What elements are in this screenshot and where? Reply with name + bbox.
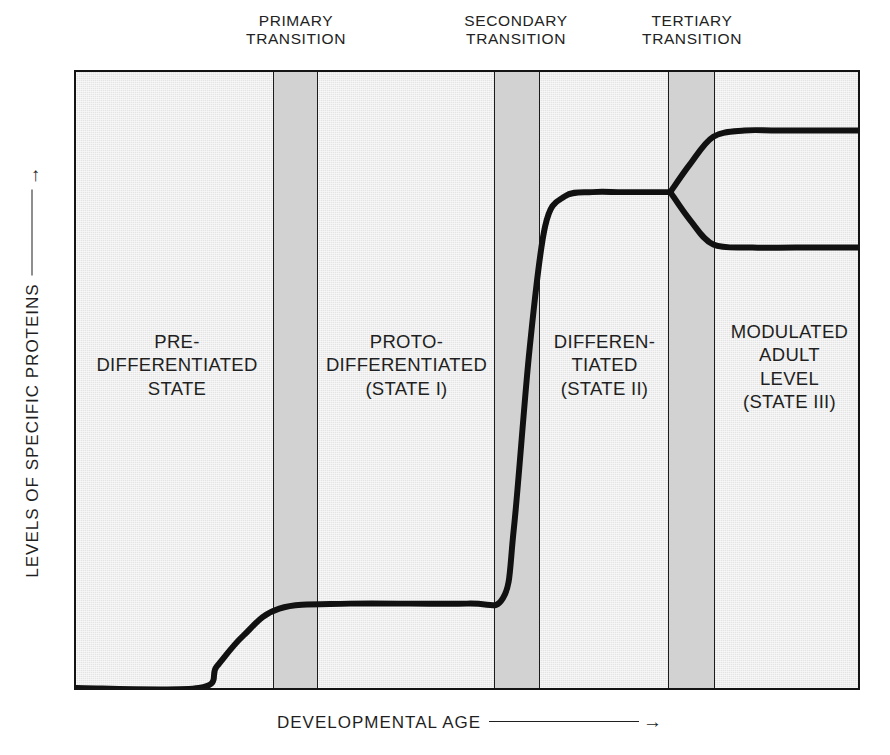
y-axis-title: LEVELS OF SPECIFIC PROTEINS→ [23,92,46,652]
transition-header-secondary: SECONDARY TRANSITION [425,12,607,48]
transition-band-tertiary [668,72,715,688]
transition-band-primary [273,72,318,688]
plot-frame: PRE- DIFFERENTIATED STATE PROTO- DIFFERE… [74,70,860,690]
region-label-modulated-adult-level: MODULATED ADULT LEVEL (STATE III) [717,320,860,413]
transition-header-tertiary: TERTIARY TRANSITION [601,12,783,48]
y-axis-rule [32,189,33,275]
region-label-pre-differentiated: PRE- DIFFERENTIATED STATE [82,330,272,400]
y-axis-label-text: LEVELS OF SPECIFIC PROTEINS [23,283,42,577]
curve-main-path [76,192,670,688]
x-axis-label-text: DEVELOPMENTAL AGE [277,713,481,732]
transition-band-secondary [494,72,540,688]
transition-header-primary: PRIMARY TRANSITION [206,12,386,48]
region-label-proto-differentiated: PROTO- DIFFERENTIATED (STATE I) [319,330,494,400]
x-axis-title: DEVELOPMENTAL AGE→ [240,712,700,735]
x-axis-arrow-icon: → [643,712,663,731]
y-axis-arrow-icon: → [23,165,42,185]
x-axis-rule [489,721,639,722]
region-label-differentiated: DIFFEREN- TIATED (STATE II) [542,330,667,400]
